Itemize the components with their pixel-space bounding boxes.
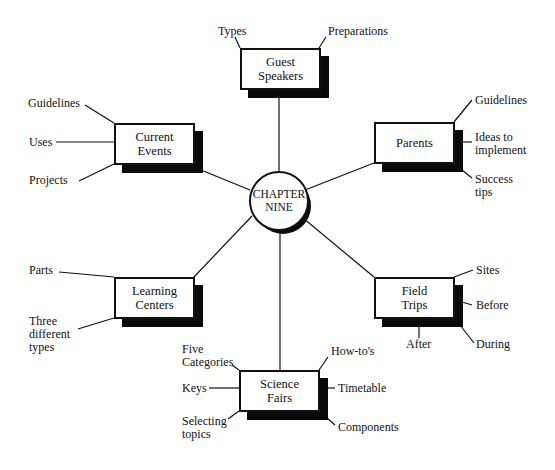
node-guest-speakers: Guest Speakers (240, 48, 321, 90)
center-label: CHAPTER NINE (253, 188, 305, 214)
subtopic-timetable: Timetable (338, 382, 386, 395)
subtopic-three-different-types: Three different types (29, 315, 70, 354)
node-current-events: Current Events (114, 123, 195, 165)
subtopic-projects: Projects (29, 174, 68, 187)
node-science-fairs: Science Fairs (239, 370, 320, 412)
mind-map-diagram: CHAPTER NINE Guest Speakers Types Prepar… (0, 0, 555, 470)
subtopic-keys: Keys (182, 382, 207, 395)
subtopic-before: Before (476, 299, 509, 312)
subtopic-types: Types (218, 25, 247, 38)
node-label: Learning Centers (132, 284, 177, 312)
node-field-trips: Field Trips (374, 277, 455, 319)
node-label: Guest Speakers (258, 55, 303, 83)
subtopic-parts: Parts (29, 264, 53, 277)
subtopic-sites: Sites (476, 264, 499, 277)
node-label: Field Trips (402, 284, 428, 312)
subtopic-during: During (476, 338, 510, 351)
subtopic-ideas-to-implement: Ideas to implement (475, 131, 526, 157)
node-label: Science Fairs (260, 377, 299, 405)
subtopic-success-tips: Success tips (475, 173, 513, 199)
subtopic-components: Components (338, 421, 399, 434)
node-learning-centers: Learning Centers (114, 277, 195, 319)
subtopic-how-tos: How-to's (331, 345, 375, 358)
node-label: Current Events (135, 130, 173, 158)
node-label: Parents (396, 136, 433, 150)
subtopic-preparations: Preparations (328, 25, 388, 38)
subtopic-selecting-topics: Selecting topics (182, 415, 227, 441)
subtopic-guidelines: Guidelines (475, 94, 527, 107)
subtopic-uses: Uses (29, 136, 52, 149)
subtopic-guidelines: Guidelines (28, 97, 80, 110)
center-node-chapter-nine: CHAPTER NINE (249, 171, 309, 231)
node-parents: Parents (374, 122, 455, 164)
subtopic-after: After (406, 338, 431, 351)
subtopic-five-categories: Five Categories (182, 343, 233, 369)
